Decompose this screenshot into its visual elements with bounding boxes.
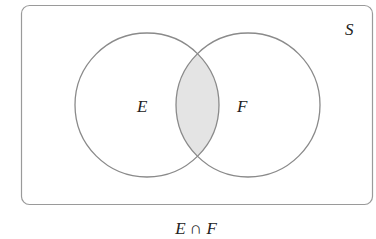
caption: E ∩ F [174, 219, 217, 238]
venn-diagram: S E F E ∩ F [0, 0, 376, 239]
set-f-label: F [236, 97, 248, 116]
universe-label: S [345, 20, 354, 39]
set-e-label: E [136, 97, 148, 116]
